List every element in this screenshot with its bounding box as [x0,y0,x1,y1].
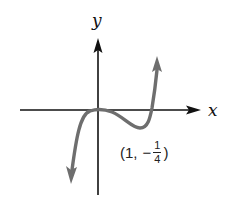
paren-close: ) [163,145,168,160]
point-x-value: 1 [125,145,133,160]
fraction-numerator: 1 [153,140,161,153]
comma: , [133,145,137,160]
x-axis-label: x [208,102,218,119]
minus-sign: − [143,145,152,160]
graph-figure: y x ( 1 , − 1 4 ) [0,0,226,199]
fraction: 1 4 [153,140,161,165]
minimum-point-label: ( 1 , − 1 4 ) [120,140,168,165]
fraction-denominator: 4 [154,153,160,165]
y-axis-label: y [92,12,102,29]
graph-svg [0,0,226,199]
